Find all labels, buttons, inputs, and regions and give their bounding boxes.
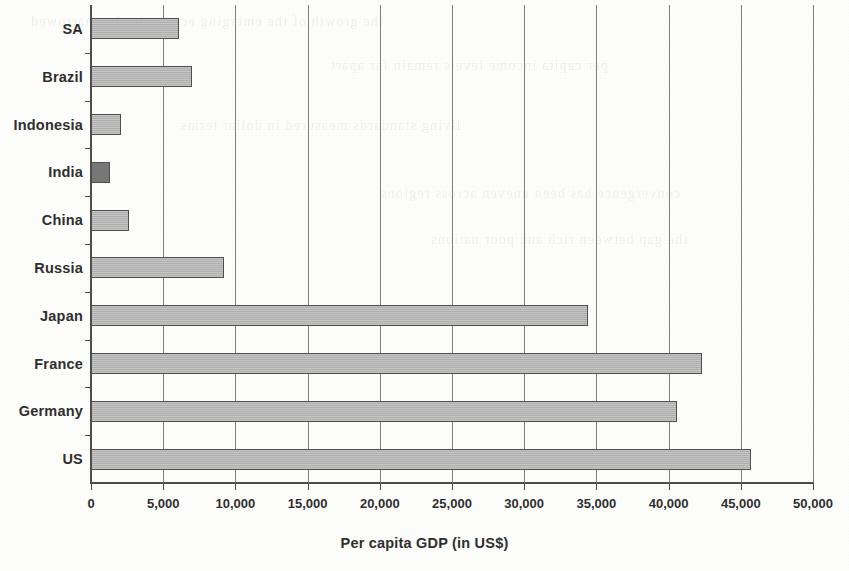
x-axis-tick-label: 10,000 xyxy=(195,497,275,510)
x-axis-tick-label: 15,000 xyxy=(268,497,348,510)
y-axis-tick xyxy=(85,340,91,341)
y-axis-tick xyxy=(85,101,91,102)
bar-chart-figure: the growth of the emerging economies has… xyxy=(0,0,849,571)
plot-area xyxy=(91,5,813,483)
x-axis-tick-label: 50,000 xyxy=(773,497,849,510)
y-axis-tick xyxy=(85,435,91,436)
x-axis-tick xyxy=(235,483,236,490)
x-axis-tick-label: 45,000 xyxy=(701,497,781,510)
x-axis-tick xyxy=(308,483,309,490)
gridline xyxy=(813,5,814,483)
x-axis-tick xyxy=(452,483,453,490)
bar-sa xyxy=(91,18,179,39)
bar-china xyxy=(91,210,129,231)
category-label-indonesia: Indonesia xyxy=(14,118,83,133)
category-label-brazil: Brazil xyxy=(42,70,83,85)
x-axis-tick-label: 25,000 xyxy=(412,497,492,510)
y-axis-tick xyxy=(85,196,91,197)
category-label-russia: Russia xyxy=(34,261,83,276)
y-axis-tick xyxy=(85,53,91,54)
x-axis-tick xyxy=(741,483,742,490)
category-label-japan: Japan xyxy=(40,309,83,324)
category-label-india: India xyxy=(48,165,83,180)
x-axis-tick xyxy=(596,483,597,490)
x-axis-tick-label: 30,000 xyxy=(484,497,564,510)
x-axis-tick xyxy=(813,483,814,490)
y-axis-tick xyxy=(85,244,91,245)
x-axis-tick xyxy=(380,483,381,490)
y-axis-tick xyxy=(85,387,91,388)
x-axis-tick xyxy=(669,483,670,490)
x-axis-tick-label: 5,000 xyxy=(123,497,203,510)
x-axis-title: Per capita GDP (in US$) xyxy=(0,535,849,551)
x-axis-tick xyxy=(163,483,164,490)
bar-russia xyxy=(91,257,224,278)
category-label-sa: SA xyxy=(62,22,83,37)
bar-indonesia xyxy=(91,114,121,135)
x-axis-tick-label: 35,000 xyxy=(556,497,636,510)
bar-france xyxy=(91,353,702,374)
y-axis-tick xyxy=(85,292,91,293)
x-axis-tick-label: 0 xyxy=(51,497,131,510)
x-axis-tick xyxy=(91,483,92,490)
bar-germany xyxy=(91,401,677,422)
y-axis-tick xyxy=(85,148,91,149)
bar-brazil xyxy=(91,66,192,87)
x-axis-tick xyxy=(524,483,525,490)
category-label-france: France xyxy=(34,357,83,372)
category-label-us: US xyxy=(62,452,83,467)
bar-india xyxy=(91,162,110,183)
category-label-china: China xyxy=(42,213,83,228)
bar-us xyxy=(91,449,751,470)
x-axis-tick-label: 20,000 xyxy=(340,497,420,510)
x-axis-tick-label: 40,000 xyxy=(629,497,709,510)
gridline xyxy=(741,5,742,483)
bar-japan xyxy=(91,305,588,326)
category-label-germany: Germany xyxy=(19,404,83,419)
